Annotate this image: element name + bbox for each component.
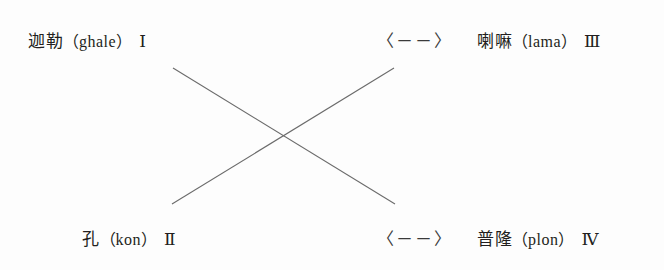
diagram-canvas: 迦勒（ghale）Ⅰ 〈－－〉 喇嘛（lama）Ⅲ 孔（kon）Ⅱ 〈－－〉 普…	[0, 0, 664, 270]
node-han-bottom-right: 普隆	[477, 229, 512, 249]
node-close-paren-bottom-left: ）	[141, 230, 157, 249]
node-label-bottom-left: 孔（kon）Ⅱ	[82, 224, 176, 255]
edge-line-ii-to-iii	[172, 68, 394, 204]
node-translit-top-right: lama	[528, 33, 561, 50]
node-numeral-bottom-left: Ⅱ	[164, 229, 176, 249]
node-open-paren-bottom-left: （	[100, 230, 116, 249]
correspondence-marker-top: 〈－－〉	[377, 26, 453, 56]
node-translit-bottom-right: plon	[528, 231, 558, 248]
node-open-paren-top-left: （	[63, 32, 79, 51]
node-numeral-top-left: Ⅰ	[139, 31, 146, 51]
node-han-bottom-left: 孔	[82, 229, 100, 249]
node-close-paren-top-left: ）	[116, 32, 132, 51]
node-open-paren-bottom-right: （	[512, 230, 528, 249]
diagram-row-top: 迦勒（ghale）Ⅰ 〈－－〉 喇嘛（lama）Ⅲ	[0, 26, 664, 56]
node-label-top-left: 迦勒（ghale）Ⅰ	[28, 26, 146, 57]
node-label-bottom-right: 普隆（plon）Ⅳ	[477, 224, 599, 255]
node-label-top-right: 喇嘛（lama）Ⅲ	[477, 26, 601, 57]
node-han-top-right: 喇嘛	[477, 31, 512, 51]
node-open-paren-top-right: （	[512, 32, 528, 51]
node-translit-top-left: ghale	[79, 33, 116, 50]
node-han-top-left: 迦勒	[28, 31, 63, 51]
node-numeral-bottom-right: Ⅳ	[581, 229, 598, 249]
edge-line-i-to-iv	[173, 68, 395, 204]
node-numeral-top-right: Ⅲ	[584, 31, 601, 51]
correspondence-marker-bottom: 〈－－〉	[377, 224, 453, 254]
node-close-paren-bottom-right: ）	[558, 230, 574, 249]
node-close-paren-top-right: ）	[561, 32, 577, 51]
diagram-row-bottom: 孔（kon）Ⅱ 〈－－〉 普隆（plon）Ⅳ	[0, 224, 664, 254]
node-translit-bottom-left: kon	[116, 231, 142, 248]
